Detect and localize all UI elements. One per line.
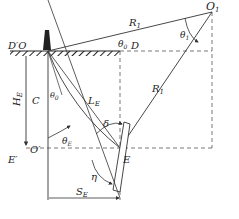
- label-delta: δ: [103, 118, 109, 129]
- label-theta-e: θE: [62, 136, 72, 147]
- label-se: SE: [76, 186, 88, 199]
- distance-se-line: [48, 0, 120, 198]
- label-d-prime-o: D′O: [7, 40, 27, 51]
- label-o-prime: O′: [30, 144, 41, 155]
- label-theta1: θ1: [180, 30, 189, 41]
- label-theta0-top: θ0: [118, 39, 127, 50]
- label-e-prime: E′: [7, 154, 18, 165]
- label-r1-diagonal: R1: [151, 83, 164, 96]
- theta0-ray: [48, 51, 62, 95]
- ground-surface: [10, 51, 120, 56]
- radius-r1-diagonal: [120, 12, 212, 148]
- geometry-diagram: O1 D′O D θ0 θ1 R1 R1 C θ0 LE HE δ θE O′ …: [0, 0, 239, 219]
- label-theta0-left: θ0: [50, 91, 59, 101]
- label-c: C: [32, 95, 40, 106]
- label-eta: η: [91, 171, 97, 182]
- label-r1-top: R1: [128, 17, 141, 30]
- label-e: E: [122, 154, 131, 165]
- label-d: D: [130, 40, 139, 51]
- label-o1: O1: [206, 0, 220, 14]
- label-he: HE: [11, 92, 24, 107]
- drilling-rig-icon: [43, 30, 51, 50]
